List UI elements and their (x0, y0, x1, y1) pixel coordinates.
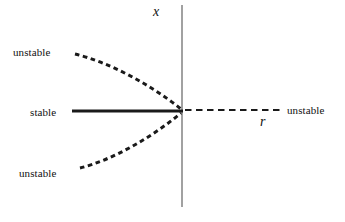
stable-label: stable (30, 106, 56, 118)
unstable-right-label: unstable (287, 104, 324, 116)
unstable-branch-lower-curve (80, 113, 181, 168)
x-axis-label: x (153, 4, 159, 19)
r-axis-label: r (260, 114, 266, 129)
bifurcation-diagram-figure: unstable stable unstable unstable x r (0, 0, 345, 222)
unstable-upper-label: unstable (13, 46, 50, 58)
unstable-branch-upper-curve (75, 54, 181, 109)
unstable-lower-label: unstable (19, 167, 56, 179)
